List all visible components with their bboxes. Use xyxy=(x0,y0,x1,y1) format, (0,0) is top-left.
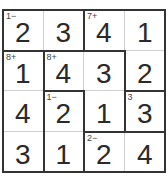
cell-value: 1 xyxy=(3,59,43,89)
cage-border xyxy=(43,131,45,174)
cage-clue: 3 xyxy=(128,92,133,102)
cage-border xyxy=(124,131,167,133)
grid-cell[interactable]: 4 xyxy=(125,132,166,173)
cell-value: 1 xyxy=(44,140,84,170)
cage-border xyxy=(124,90,167,92)
grid-cell[interactable]: 1 xyxy=(44,132,85,173)
cage-border xyxy=(83,131,85,174)
kenken-grid: 23411432421331241−7+8+8+1−32− xyxy=(3,10,165,172)
cell-value: 4 xyxy=(125,140,166,170)
cage-clue: 1− xyxy=(47,92,57,102)
cage-border xyxy=(124,50,126,93)
cell-value: 2 xyxy=(125,59,166,89)
cell-value: 1 xyxy=(84,99,124,129)
cage-border xyxy=(83,50,126,52)
cell-value: 4 xyxy=(44,59,84,89)
cell-value: 2 xyxy=(84,140,124,170)
cage-border xyxy=(83,131,126,133)
cage-border xyxy=(43,90,86,92)
grid-cell[interactable]: 1 xyxy=(84,91,125,132)
cage-clue: 2− xyxy=(87,133,97,143)
cell-value: 3 xyxy=(84,59,124,89)
grid-cell[interactable]: 3 xyxy=(3,132,44,173)
grid-cell[interactable]: 2 xyxy=(125,51,166,92)
grid-cell[interactable]: 4 xyxy=(3,91,44,132)
cell-value: 4 xyxy=(84,18,124,48)
cage-border xyxy=(83,90,85,133)
cell-value: 2 xyxy=(3,18,43,48)
cell-value: 3 xyxy=(125,99,166,129)
cage-clue: 7+ xyxy=(87,11,97,21)
cage-border xyxy=(124,90,126,133)
cage-clue: 1− xyxy=(6,11,16,21)
grid-cell[interactable]: 1 xyxy=(125,10,166,51)
cage-border xyxy=(43,50,45,93)
grid-cell[interactable]: 3 xyxy=(44,10,85,51)
cell-value: 1 xyxy=(125,18,166,48)
cell-value: 3 xyxy=(44,18,84,48)
cage-clue: 8+ xyxy=(47,52,57,62)
cage-border xyxy=(2,9,4,173)
cell-value: 4 xyxy=(3,99,43,129)
cage-border xyxy=(43,90,45,133)
cell-value: 2 xyxy=(44,99,84,129)
cage-border xyxy=(43,50,86,52)
cell-value: 3 xyxy=(3,140,43,170)
cage-border xyxy=(2,50,45,52)
grid-cell[interactable]: 3 xyxy=(84,51,125,92)
cage-clue: 8+ xyxy=(6,52,16,62)
cage-border xyxy=(83,9,85,52)
